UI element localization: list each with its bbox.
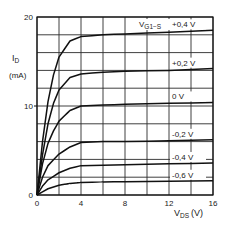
grid [37, 17, 213, 195]
curve-label: -0,4 V [172, 153, 194, 162]
y-tick-20: 20 [24, 13, 33, 22]
x-tick-0: 0 [35, 199, 40, 208]
y-tick-0: 0 [29, 191, 34, 200]
transistor-characteristic-chart: +0,4 V+0,2 V0 V-0,2 V-0,4 V-0,6 V 20 10 … [0, 0, 225, 230]
curve-label: +0,4 V [172, 20, 196, 29]
curve-label: -0,6 V [172, 171, 194, 180]
curve-label: +0,2 V [172, 59, 196, 68]
x-tick-4: 4 [79, 199, 84, 208]
y-axis-unit: (mA) [9, 71, 27, 80]
y-axis-label: ID [12, 53, 20, 64]
x-tick-12: 12 [165, 199, 174, 208]
legend-title: VG1−S [137, 19, 170, 30]
curve-label: 0 V [172, 92, 185, 101]
y-tick-10: 10 [24, 102, 33, 111]
x-axis-label: VDS(V) [174, 208, 203, 219]
x-tick-8: 8 [123, 199, 128, 208]
curve-label: -0,2 V [172, 130, 194, 139]
x-tick-16: 16 [209, 199, 218, 208]
curve-labels: +0,4 V+0,2 V0 V-0,2 V-0,4 V-0,6 V [170, 19, 206, 179]
